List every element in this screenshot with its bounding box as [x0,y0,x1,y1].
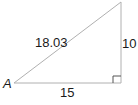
adjacent-side-label: 15 [60,86,74,99]
hypotenuse-label: 18.03 [35,36,68,49]
right-angle-marker [113,76,121,83]
opposite-side-label: 10 [122,37,136,50]
vertex-label-a: A [3,77,12,90]
